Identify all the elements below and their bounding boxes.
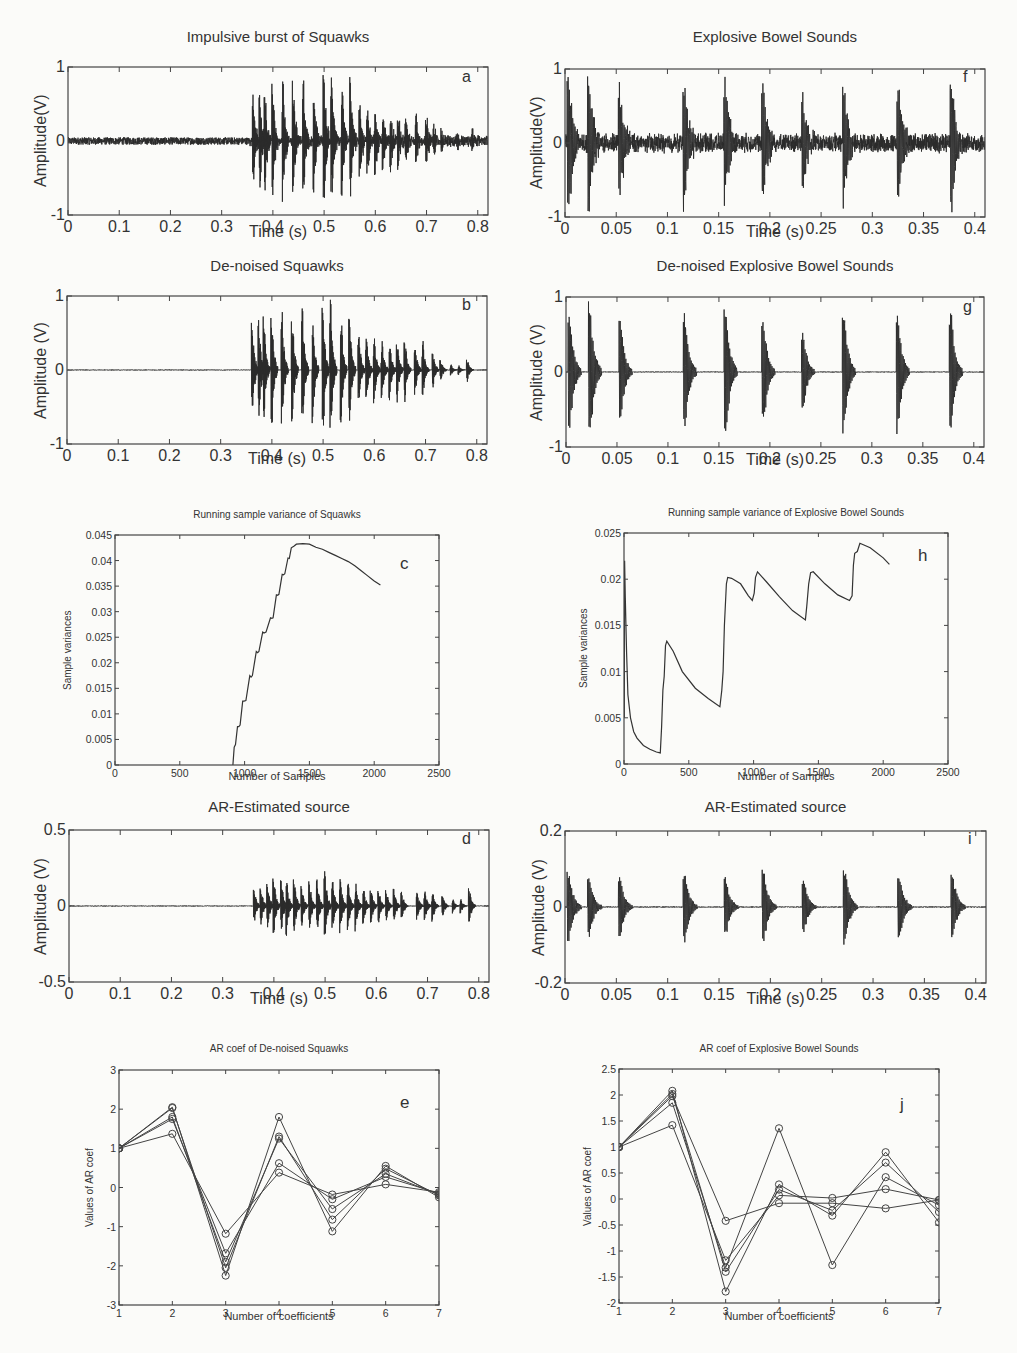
panel-label-j: j: [900, 1095, 904, 1115]
chart-title-j: AR coef of Explosive Bowel Sounds: [619, 1043, 939, 1054]
y-tick-label: 1: [610, 1141, 616, 1153]
y-tick-label: -2: [607, 1297, 616, 1309]
y-tick-label: -0.5: [598, 1219, 616, 1231]
y-tick-label: 1.5: [601, 1115, 616, 1127]
x-axis-label-j: Number of coefficients: [619, 1310, 939, 1322]
y-tick-label: 0.5: [601, 1167, 616, 1179]
plot-area-j: 1234567-2-1.5-1-0.500.511.522.5: [0, 0, 1017, 1353]
y-tick-label: 2.5: [601, 1063, 616, 1075]
y-tick-label: 2: [610, 1089, 616, 1101]
y-tick-label: -1: [607, 1245, 616, 1257]
y-tick-label: -1.5: [598, 1271, 616, 1283]
y-tick-label: 0: [610, 1193, 616, 1205]
series-j: [615, 1087, 942, 1295]
figure: 00.10.20.30.40.50.60.70.8-101Impulsive b…: [0, 0, 1017, 1353]
y-axis-label-j: Values of AR coef: [582, 1147, 593, 1226]
chart-panel-j: 1234567-2-1.5-1-0.500.511.522.5AR coef o…: [0, 0, 1017, 1353]
